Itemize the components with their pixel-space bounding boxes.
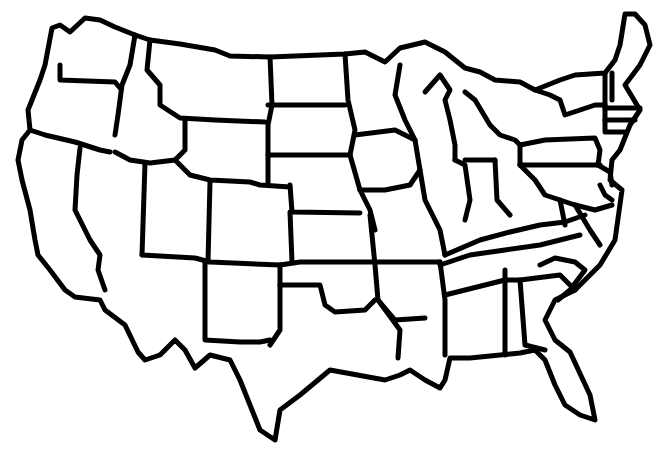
us-border <box>18 14 650 440</box>
us-outline-map <box>0 0 667 452</box>
map-svg <box>0 0 667 452</box>
